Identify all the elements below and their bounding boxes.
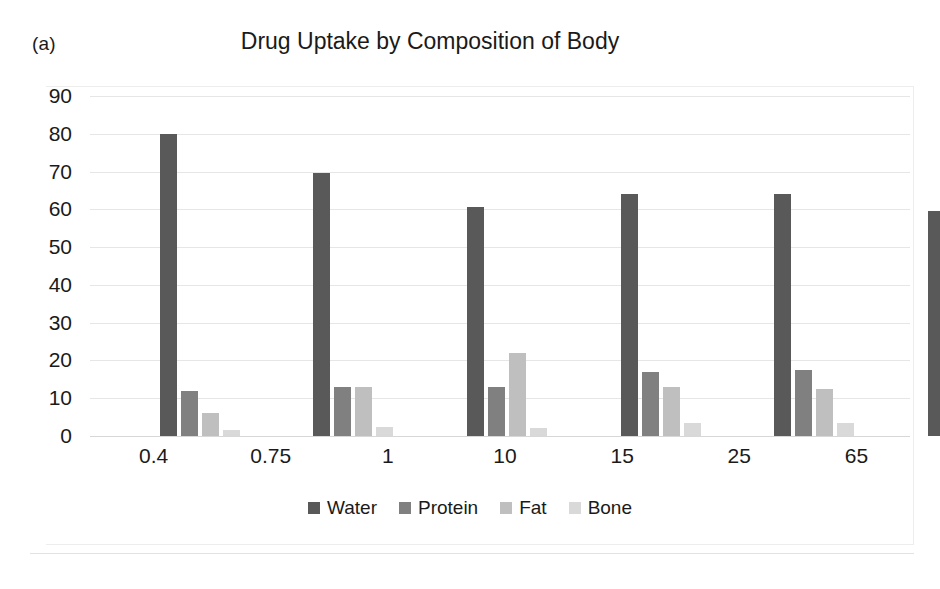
panel-label: (a) (32, 33, 56, 55)
bar-group (858, 96, 940, 436)
y-axis-tick-label: 60 (49, 197, 72, 221)
bar-fat-10 (663, 387, 680, 436)
x-axis-tick-label: 15 (559, 444, 676, 478)
bar-bone-0.4 (223, 430, 240, 436)
bar-water-0.4 (160, 134, 177, 436)
bar-water-25 (928, 211, 940, 436)
x-axis-tick-label: 25 (676, 444, 793, 478)
legend-item-bone[interactable]: Bone (569, 497, 632, 519)
bar-group (551, 96, 705, 436)
legend-swatch-icon (569, 502, 581, 514)
chart-legend: WaterProteinFatBone (0, 497, 940, 519)
y-axis-tick-label: 40 (49, 273, 72, 297)
bar-water-15 (774, 194, 791, 436)
bar-group (244, 96, 398, 436)
y-axis-tick-label: 70 (49, 160, 72, 184)
legend-item-protein[interactable]: Protein (399, 497, 478, 519)
y-axis: 9080706050403020100 (28, 86, 80, 436)
bar-group (705, 96, 859, 436)
bar-groups (90, 96, 910, 436)
y-axis-tick-label: 0 (60, 424, 72, 448)
legend-label: Protein (418, 497, 478, 519)
bar-water-0.75 (313, 173, 330, 436)
bar-protein-0.4 (181, 391, 198, 436)
legend-swatch-icon (500, 502, 512, 514)
y-axis-tick-label: 90 (49, 84, 72, 108)
bar-protein-0.75 (334, 387, 351, 436)
x-axis-tick-label: 65 (793, 444, 910, 478)
x-axis-tick-label: 0.75 (207, 444, 324, 478)
x-axis: 0.40.75110152565 (90, 444, 910, 478)
y-axis-tick-label: 50 (49, 235, 72, 259)
chart-title: Drug Uptake by Composition of Body (150, 28, 710, 55)
gridline (90, 436, 910, 437)
bar-fat-0.75 (355, 387, 372, 436)
bar-protein-1 (488, 387, 505, 436)
y-axis-tick-label: 30 (49, 311, 72, 335)
bar-bone-15 (837, 423, 854, 436)
x-axis-tick-label: 10 (441, 444, 558, 478)
bar-protein-15 (795, 370, 812, 436)
legend-swatch-icon (308, 502, 320, 514)
bar-fat-0.4 (202, 413, 219, 436)
x-axis-tick-label: 1 (324, 444, 441, 478)
legend-item-fat[interactable]: Fat (500, 497, 546, 519)
y-axis-tick-label: 80 (49, 122, 72, 146)
bar-water-10 (621, 194, 638, 436)
bar-group (397, 96, 551, 436)
bar-bone-1 (530, 428, 547, 436)
bar-protein-10 (642, 372, 659, 436)
legend-label: Bone (588, 497, 632, 519)
bar-fat-1 (509, 353, 526, 436)
plot-wrapper: 9080706050403020100 0.40.75110152565 (28, 86, 914, 486)
figure-panel: (a) Drug Uptake by Composition of Body 9… (0, 0, 940, 589)
bar-bone-0.75 (376, 427, 393, 436)
legend-item-water[interactable]: Water (308, 497, 377, 519)
legend-swatch-icon (399, 502, 411, 514)
bar-fat-15 (816, 389, 833, 436)
bar-group (90, 96, 244, 436)
y-axis-tick-label: 20 (49, 348, 72, 372)
plot-area (90, 96, 910, 436)
bar-water-1 (467, 207, 484, 436)
legend-label: Fat (519, 497, 546, 519)
x-axis-tick-label: 0.4 (90, 444, 207, 478)
bar-bone-10 (684, 423, 701, 436)
legend-label: Water (327, 497, 377, 519)
y-axis-tick-label: 10 (49, 386, 72, 410)
figure-bottom-rule (30, 553, 914, 554)
